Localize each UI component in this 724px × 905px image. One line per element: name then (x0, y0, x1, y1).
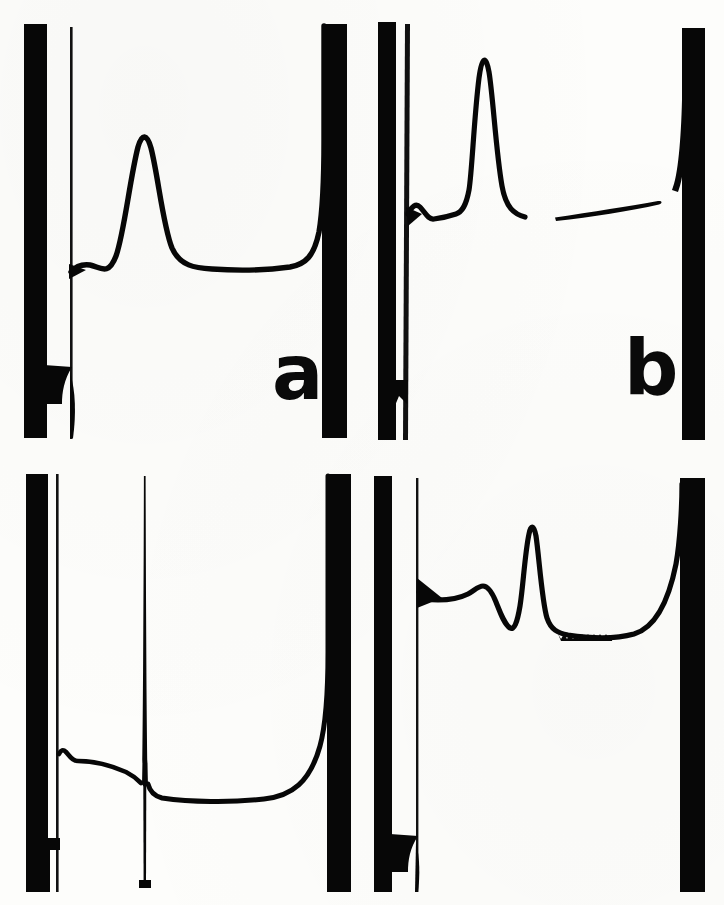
panel-label-b: b (624, 330, 677, 406)
baseline-bridge-tail (415, 842, 419, 892)
injection-axis-line (403, 24, 410, 440)
left-offscale-bar (374, 476, 392, 892)
right-offscale-bar (322, 24, 347, 438)
panel-c-plot (0, 452, 362, 905)
start-wedge (417, 578, 442, 608)
panel-a: a (0, 0, 362, 452)
spike-tail-blob (139, 880, 151, 888)
trace-baseline-left (59, 750, 141, 783)
injection-axis-line (416, 478, 418, 892)
trace-curve (419, 484, 682, 638)
baseline-bridge (44, 365, 72, 404)
detached-baseline-segment (555, 201, 662, 221)
baseline-bridge (390, 834, 418, 872)
panel-d: d (362, 452, 724, 905)
panel-label-a: a (272, 335, 322, 411)
right-offscale-bar (680, 478, 705, 892)
trace-baseline-right (148, 476, 328, 802)
trace-curve (71, 26, 324, 272)
panel-b: b (362, 0, 724, 452)
panel-d-plot (362, 452, 724, 905)
right-offscale-bar (327, 474, 351, 892)
panel-c: c (0, 452, 362, 905)
right-offscale-bar (682, 28, 705, 440)
left-offscale-bar (378, 22, 396, 440)
left-offscale-bar (24, 24, 47, 438)
spike-downward (143, 784, 146, 884)
left-offscale-bar (26, 474, 48, 892)
spike-upward (142, 476, 148, 787)
injection-axis-line (56, 474, 59, 892)
trace-curve (408, 60, 525, 219)
figure-root: a b (0, 0, 724, 905)
